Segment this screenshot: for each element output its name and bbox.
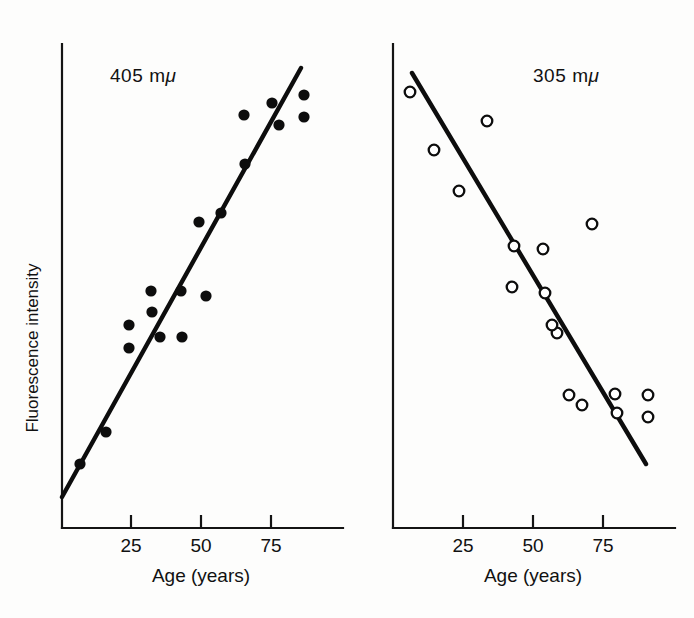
left-data-point: [239, 158, 250, 169]
right-data-point: [507, 282, 518, 293]
right-x-axis-title: Age (years): [484, 565, 582, 586]
right-panel-title-number: 305: [533, 65, 566, 86]
left-data-point: [154, 331, 165, 342]
right-regression-line: [412, 73, 646, 464]
left-data-point: [74, 458, 85, 469]
left-tick-label-50: 50: [190, 535, 211, 556]
right-data-point: [564, 390, 575, 401]
left-data-point: [123, 319, 134, 330]
left-data-point: [146, 306, 157, 317]
right-data-point: [587, 219, 598, 230]
right-tick-label-75: 75: [592, 535, 613, 556]
right-tick-label-50: 50: [522, 535, 543, 556]
right-data-point: [643, 412, 654, 423]
right-data-point: [610, 389, 621, 400]
right-data-point: [643, 390, 654, 401]
panel-left-405: 25 50 75 Age (years) 405mμ: [62, 44, 343, 586]
left-data-point: [273, 119, 284, 130]
left-panel-title: 405mμ: [110, 65, 177, 86]
left-data-point: [238, 109, 249, 120]
figure-svg: Fluorescence intensity 25 50 75 Age (yea…: [0, 0, 694, 618]
right-data-point: [547, 320, 558, 331]
left-data-point: [298, 89, 309, 100]
left-data-point: [176, 331, 187, 342]
right-data-point: [429, 145, 440, 156]
left-panel-title-mu: μ: [165, 65, 177, 86]
right-data-point: [509, 241, 520, 252]
figure-container: Fluorescence intensity 25 50 75 Age (yea…: [0, 0, 694, 618]
left-panel-title-unit: m: [149, 65, 165, 86]
right-data-point: [454, 186, 465, 197]
left-data-point: [145, 285, 156, 296]
left-data-point: [193, 216, 204, 227]
left-data-point: [200, 290, 211, 301]
left-tick-label-75: 75: [260, 535, 281, 556]
right-data-points: [405, 87, 654, 423]
right-tick-label-25: 25: [452, 535, 473, 556]
right-panel-title: 305mμ: [533, 65, 600, 86]
left-panel-title-number: 405: [110, 65, 143, 86]
y-axis-title: Fluorescence intensity: [23, 263, 42, 433]
right-data-point: [538, 244, 549, 255]
left-data-point: [298, 111, 309, 122]
panel-right-305: 25 50 75 Age (years) 305mμ: [393, 44, 675, 586]
left-x-axis-title: Age (years): [152, 565, 250, 586]
right-data-point: [612, 408, 623, 419]
left-tick-label-25: 25: [120, 535, 141, 556]
left-data-point: [100, 426, 111, 437]
left-data-point: [175, 285, 186, 296]
right-data-point: [540, 288, 551, 299]
right-data-point: [405, 87, 416, 98]
left-data-point: [215, 207, 226, 218]
right-data-point: [577, 400, 588, 411]
y-axis-title-group: Fluorescence intensity: [23, 263, 42, 433]
left-data-point: [266, 97, 277, 108]
right-data-point: [482, 116, 493, 127]
left-regression-line: [62, 68, 301, 497]
right-panel-title-mu: μ: [588, 65, 600, 86]
left-data-point: [123, 342, 134, 353]
right-panel-title-unit: m: [572, 65, 588, 86]
